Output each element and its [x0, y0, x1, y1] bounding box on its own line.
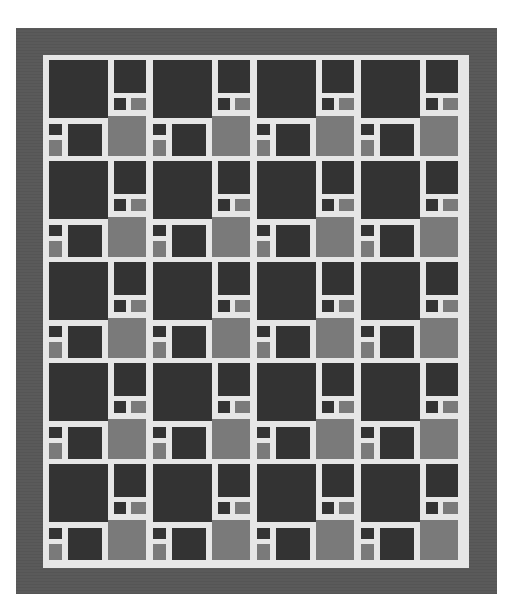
bottom-center-dark-rect [276, 326, 310, 358]
center-small-dark [218, 199, 230, 211]
bottom-right-medium-square [420, 116, 458, 156]
top-right-dark [426, 262, 458, 295]
top-right-dark [322, 161, 354, 194]
bottom-left-small-medium [257, 140, 270, 156]
center-small-medium [443, 199, 458, 211]
center-small-dark [218, 98, 230, 110]
bottom-left-small-medium [153, 140, 166, 156]
quilt-block [147, 358, 251, 459]
bottom-right-medium-square [108, 116, 146, 156]
bottom-center-dark-rect [172, 427, 206, 459]
center-small-medium [131, 98, 146, 110]
center-small-medium [235, 98, 250, 110]
center-small-medium [443, 98, 458, 110]
quilt-block [251, 156, 355, 257]
bottom-left-small-dark [257, 326, 270, 337]
large-dark-square [361, 161, 420, 219]
quilt-block [251, 257, 355, 358]
bottom-center-dark-rect [68, 326, 102, 358]
bottom-left-small-medium [153, 443, 166, 459]
bottom-left-small-medium [361, 140, 374, 156]
center-small-dark [426, 98, 438, 110]
top-right-dark [426, 60, 458, 93]
quilt-block [147, 459, 251, 560]
quilt-block [251, 55, 355, 156]
quilt-block [355, 257, 459, 358]
bottom-center-dark-rect [172, 225, 206, 257]
bottom-right-medium-square [420, 217, 458, 257]
center-small-medium [235, 401, 250, 413]
quilt-block [355, 459, 459, 560]
large-dark-square [153, 363, 212, 421]
center-small-dark [426, 199, 438, 211]
center-small-dark [322, 199, 334, 211]
bottom-right-medium-square [108, 217, 146, 257]
large-dark-square [257, 161, 316, 219]
bottom-left-small-medium [257, 342, 270, 358]
top-right-dark [322, 464, 354, 497]
bottom-center-dark-rect [380, 124, 414, 156]
bottom-left-small-dark [361, 326, 374, 337]
bottom-right-medium-square [316, 217, 354, 257]
center-small-medium [235, 300, 250, 312]
center-small-dark [218, 300, 230, 312]
large-dark-square [257, 363, 316, 421]
bottom-left-small-dark [153, 225, 166, 236]
bottom-right-medium-square [420, 520, 458, 560]
top-right-dark [426, 161, 458, 194]
top-right-dark [218, 60, 250, 93]
center-small-medium [339, 502, 354, 514]
bottom-left-small-dark [361, 225, 374, 236]
bottom-left-small-dark [49, 326, 62, 337]
quilt-block [43, 55, 147, 156]
bottom-left-small-medium [361, 544, 374, 560]
quilt-top [43, 55, 469, 568]
bottom-center-dark-rect [276, 427, 310, 459]
bottom-left-small-medium [257, 443, 270, 459]
large-dark-square [257, 262, 316, 320]
top-right-dark [218, 363, 250, 396]
bottom-left-small-dark [153, 326, 166, 337]
bottom-left-small-dark [153, 427, 166, 438]
quilt-block [43, 257, 147, 358]
center-small-medium [339, 300, 354, 312]
bottom-right-medium-square [212, 318, 250, 358]
bottom-center-dark-rect [172, 326, 206, 358]
bottom-center-dark-rect [380, 225, 414, 257]
top-right-dark [114, 464, 146, 497]
center-small-dark [218, 502, 230, 514]
top-right-dark [218, 161, 250, 194]
top-right-dark [322, 60, 354, 93]
large-dark-square [361, 363, 420, 421]
bottom-left-small-dark [257, 124, 270, 135]
center-small-medium [339, 199, 354, 211]
center-small-dark [114, 300, 126, 312]
center-small-dark [322, 502, 334, 514]
large-dark-square [153, 464, 212, 522]
top-right-dark [426, 464, 458, 497]
large-dark-square [49, 161, 108, 219]
large-dark-square [361, 60, 420, 118]
center-small-medium [339, 401, 354, 413]
bottom-right-medium-square [316, 116, 354, 156]
bottom-left-small-medium [49, 140, 62, 156]
quilt-block [43, 358, 147, 459]
top-right-dark [322, 262, 354, 295]
bottom-left-small-dark [49, 124, 62, 135]
bottom-right-medium-square [108, 419, 146, 459]
bottom-left-small-dark [361, 427, 374, 438]
bottom-center-dark-rect [276, 124, 310, 156]
bottom-left-small-medium [153, 342, 166, 358]
center-small-dark [218, 401, 230, 413]
quilt-block [147, 55, 251, 156]
large-dark-square [153, 161, 212, 219]
center-small-medium [443, 300, 458, 312]
bottom-left-small-medium [49, 443, 62, 459]
center-small-dark [322, 98, 334, 110]
top-right-dark [426, 363, 458, 396]
bottom-right-medium-square [212, 217, 250, 257]
center-small-dark [426, 401, 438, 413]
center-small-dark [114, 502, 126, 514]
bottom-left-small-medium [153, 241, 166, 257]
large-dark-square [49, 363, 108, 421]
